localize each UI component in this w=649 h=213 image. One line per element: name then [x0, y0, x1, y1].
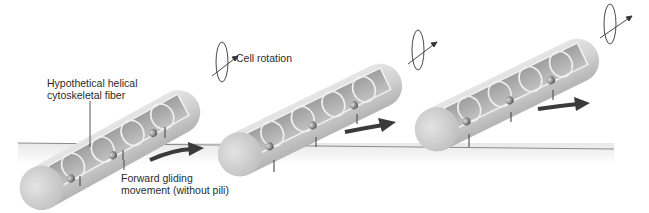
gliding-label-line1: Forward gliding — [121, 172, 229, 184]
gliding-label-line2: movement (without pili) — [121, 184, 229, 196]
cell-3 — [407, 31, 606, 158]
gliding-motility-diagram — [0, 0, 649, 213]
rotation-icon — [600, 4, 632, 44]
helical-fiber-label: Hypothetical helical cytoskeletal fiber — [47, 77, 137, 101]
gliding-label: Forward gliding movement (without pili) — [121, 172, 229, 196]
cell-rotation-label: Cell rotation — [236, 52, 292, 64]
rotation-icon — [408, 30, 437, 70]
helical-fiber-label-line1: Hypothetical helical — [47, 77, 137, 89]
rotation-icon — [212, 42, 238, 82]
helical-fiber-label-line2: cytoskeletal fiber — [47, 89, 137, 101]
